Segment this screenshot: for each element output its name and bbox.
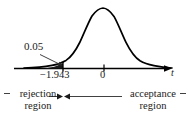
x-axis-label: t: [171, 68, 174, 78]
tail-area-label: 0.05: [24, 41, 43, 52]
tick-label-critical-value: −1.943: [40, 70, 70, 81]
rejection-region-line1: rejection: [20, 88, 57, 99]
acceptance-region-line1: acceptance: [130, 88, 176, 99]
acceptance-region-label: acceptance region: [121, 89, 185, 111]
alpha-leader-line: [40, 55, 60, 65]
acceptance-region-line2: region: [121, 101, 185, 112]
t-distribution-figure: 0.05 −1.943 0 t rejection region accepta…: [0, 0, 189, 117]
rejection-region-line2: region: [10, 101, 66, 112]
rejection-region-label: rejection region: [10, 89, 66, 111]
density-curve: [24, 8, 172, 68]
tick-label-zero: 0: [100, 70, 105, 81]
